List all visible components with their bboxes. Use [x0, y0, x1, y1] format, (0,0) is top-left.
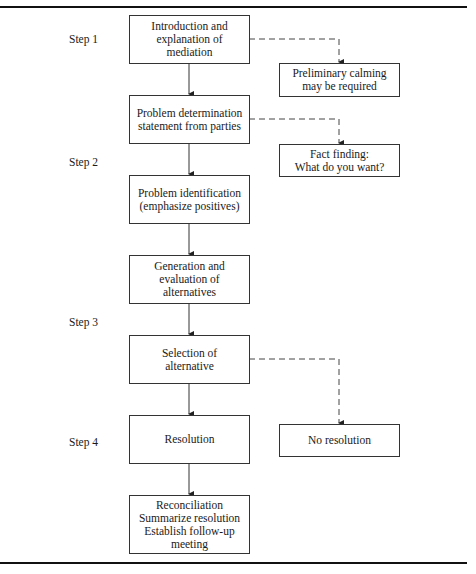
- resolution-box: Resolution: [129, 415, 250, 464]
- preliminary-calming-box: Preliminary calming may be required: [279, 63, 400, 97]
- step-3-label: Step 3: [69, 316, 98, 329]
- selection-box: Selection of alternative: [129, 335, 250, 384]
- problem-determination-box: Problem determination statement from par…: [129, 95, 250, 144]
- no-resolution-box: No resolution: [279, 424, 400, 457]
- step-4-label: Step 4: [69, 436, 98, 449]
- fact-finding-box: Fact finding: What do you want?: [279, 144, 400, 177]
- introduction-box: Introduction and explanation of mediatio…: [129, 15, 250, 64]
- generation-evaluation-box: Generation and evaluation of alternative…: [129, 255, 250, 304]
- reconciliation-box: Reconciliation Summarize resolution Esta…: [129, 495, 250, 554]
- problem-identification-box: Problem identification (emphasize positi…: [129, 175, 250, 224]
- step-1-label: Step 1: [69, 33, 98, 46]
- step-2-label: Step 2: [69, 156, 98, 169]
